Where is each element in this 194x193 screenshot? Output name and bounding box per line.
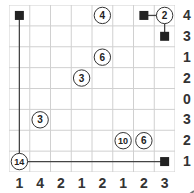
grid-cell[interactable] xyxy=(30,89,51,110)
grid-cell[interactable] xyxy=(92,47,113,68)
grid-cell[interactable] xyxy=(51,5,72,26)
grid-cell[interactable] xyxy=(30,26,51,47)
grid-cell[interactable] xyxy=(134,109,155,130)
grid-cell[interactable] xyxy=(9,130,30,151)
grid-cell[interactable] xyxy=(9,109,30,130)
grid-cell[interactable] xyxy=(154,5,175,26)
row-clue: 1 xyxy=(180,151,194,172)
grid-cell[interactable] xyxy=(113,26,134,47)
column-clue: 2 xyxy=(134,174,155,192)
grid-cell[interactable] xyxy=(9,151,30,172)
row-clue: 3 xyxy=(180,109,194,130)
grid-cell[interactable] xyxy=(71,26,92,47)
grid-cell[interactable] xyxy=(92,5,113,26)
grid-cell[interactable] xyxy=(92,130,113,151)
grid-cell[interactable] xyxy=(134,68,155,89)
grid-cell[interactable] xyxy=(9,47,30,68)
grid-cell[interactable] xyxy=(134,89,155,110)
grid-cell[interactable] xyxy=(154,89,175,110)
grid-cell[interactable] xyxy=(92,89,113,110)
grid-cell[interactable] xyxy=(51,151,72,172)
row-clue: 0 xyxy=(180,89,194,110)
grid-cell[interactable] xyxy=(92,26,113,47)
grid-cell[interactable] xyxy=(113,130,134,151)
grid-cell[interactable] xyxy=(113,47,134,68)
grid-cell[interactable] xyxy=(9,5,30,26)
grid-cell[interactable] xyxy=(30,130,51,151)
grid-cell[interactable] xyxy=(30,68,51,89)
grid-cell[interactable] xyxy=(154,130,175,151)
grid-cell[interactable] xyxy=(51,89,72,110)
grid-cell[interactable] xyxy=(71,89,92,110)
column-clue: 3 xyxy=(154,174,175,192)
grid-cell[interactable] xyxy=(51,26,72,47)
grid-cell[interactable] xyxy=(154,47,175,68)
grid-cell[interactable] xyxy=(154,109,175,130)
grid-cell[interactable] xyxy=(92,68,113,89)
row-clue: 3 xyxy=(180,26,194,47)
grid-cell[interactable] xyxy=(113,5,134,26)
grid-cell[interactable] xyxy=(134,5,155,26)
grid-cell[interactable] xyxy=(71,47,92,68)
grid-cell[interactable] xyxy=(30,47,51,68)
grid-cell[interactable] xyxy=(134,151,155,172)
grid-cell[interactable] xyxy=(134,47,155,68)
grid-cell[interactable] xyxy=(51,47,72,68)
grid-cell[interactable] xyxy=(154,151,175,172)
grid-cell[interactable] xyxy=(30,151,51,172)
corner-mark xyxy=(184,190,194,193)
grid-cell[interactable] xyxy=(51,68,72,89)
row-clue: 4 xyxy=(180,5,194,26)
grid-cell[interactable] xyxy=(92,109,113,130)
column-clue: 2 xyxy=(92,174,113,192)
grid-cell[interactable] xyxy=(9,68,30,89)
grid-cell[interactable] xyxy=(113,151,134,172)
column-clue: 1 xyxy=(113,174,134,192)
grid-cell[interactable] xyxy=(154,26,175,47)
column-clue: 1 xyxy=(71,174,92,192)
grid-cell[interactable] xyxy=(113,109,134,130)
grid-cell[interactable] xyxy=(154,68,175,89)
grid-cell[interactable] xyxy=(71,151,92,172)
column-clue: 2 xyxy=(51,174,72,192)
puzzle-grid[interactable]: 4263310614 xyxy=(9,5,175,172)
grid-cell[interactable] xyxy=(134,26,155,47)
grid-cell[interactable] xyxy=(71,130,92,151)
grid-cell[interactable] xyxy=(9,26,30,47)
column-clue: 1 xyxy=(9,174,30,192)
row-clue: 2 xyxy=(180,68,194,89)
grid-cell[interactable] xyxy=(9,89,30,110)
grid-cell[interactable] xyxy=(113,68,134,89)
grid-cell[interactable] xyxy=(71,109,92,130)
grid-cell[interactable] xyxy=(134,130,155,151)
row-clue: 2 xyxy=(180,130,194,151)
grid-cell[interactable] xyxy=(30,109,51,130)
grid-cell[interactable] xyxy=(71,5,92,26)
grid-cell[interactable] xyxy=(113,89,134,110)
grid-cell[interactable] xyxy=(51,109,72,130)
grid-cell[interactable] xyxy=(30,5,51,26)
row-clue: 1 xyxy=(180,47,194,68)
grid-cell[interactable] xyxy=(51,130,72,151)
grid-cell[interactable] xyxy=(71,68,92,89)
grid-cell[interactable] xyxy=(92,151,113,172)
column-clue: 4 xyxy=(30,174,51,192)
